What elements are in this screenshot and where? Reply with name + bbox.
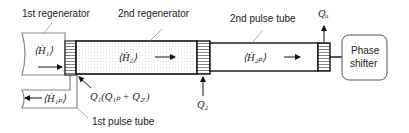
q1-heat-arrow bbox=[79, 77, 91, 88]
phase-shifter-label-line2: shifter bbox=[350, 58, 378, 69]
qa-symbol: Qₐ bbox=[318, 8, 329, 19]
phase-shifter-label-line1: Phase bbox=[351, 45, 380, 56]
diagram-canvas: 1st regenerator 2nd regenerator 2nd puls… bbox=[0, 0, 409, 133]
ambient-heat-exchanger bbox=[318, 43, 330, 71]
h2p-symbol: ⟨Ḣ₂ₚ⟩ bbox=[243, 52, 266, 63]
h1p-symbol: ⟨Ḣ₁ₚ⟩ bbox=[43, 93, 66, 104]
first-pulse-tube-leader bbox=[77, 108, 88, 118]
second-pulse-tube-label: 2nd pulse tube bbox=[230, 13, 296, 24]
first-pulse-tube-label: 1st pulse tube bbox=[92, 116, 155, 127]
first-heat-exchanger bbox=[65, 41, 76, 75]
first-regenerator-leader bbox=[44, 23, 52, 33]
q2-symbol: Q₂ bbox=[197, 99, 209, 110]
first-regenerator-label: 1st regenerator bbox=[22, 8, 90, 19]
q1-symbol: Q₁(Q₁ₚ + Q₂ᵣ) bbox=[90, 91, 150, 103]
second-pulse-tube-leader bbox=[252, 31, 262, 43]
second-regenerator-label: 2nd regenerator bbox=[118, 8, 190, 19]
h2-symbol: ⟨Ḣ₂⟩ bbox=[118, 52, 137, 63]
second-heat-exchanger bbox=[197, 41, 210, 74]
h1-symbol: ⟨Ḣ₁⟩ bbox=[34, 45, 53, 56]
second-regenerator-leader bbox=[150, 29, 162, 41]
